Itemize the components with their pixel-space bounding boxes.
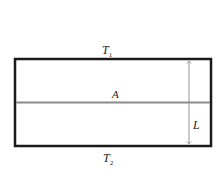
bottom-temperature-label: T2	[103, 151, 114, 167]
slab-diagram: T1 A L T2	[0, 0, 222, 174]
thickness-label: L	[192, 118, 200, 132]
top-temperature-label: T1	[102, 43, 113, 59]
area-label: A	[111, 88, 119, 100]
